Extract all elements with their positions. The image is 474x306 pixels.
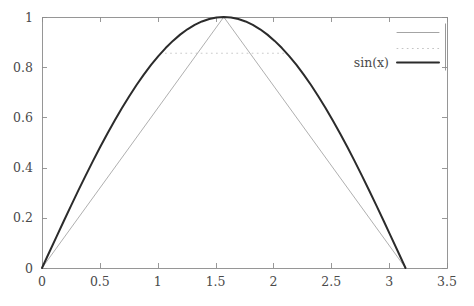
- y-tick-label: 0.4: [13, 160, 33, 175]
- x-tick-label: 3.5: [437, 274, 457, 289]
- x-tick-label: 0: [38, 274, 46, 289]
- sine-plot: 00.511.522.533.5 00.20.40.60.81 sin(x): [0, 0, 474, 306]
- y-tick-label: 1: [25, 10, 33, 25]
- x-tick-label: 0.5: [90, 274, 110, 289]
- x-tick-label: 1.5: [206, 274, 226, 289]
- y-tick-label: 0: [25, 261, 33, 276]
- y-tick-label: 0.6: [13, 110, 33, 125]
- x-tick-label: 3: [385, 274, 393, 289]
- legend-label: sin(x): [354, 55, 389, 70]
- chart-container: 00.511.522.533.5 00.20.40.60.81 sin(x): [0, 0, 474, 306]
- y-tick-label: 0.8: [13, 60, 33, 75]
- y-tick-label: 0.2: [13, 210, 33, 225]
- x-tick-label: 2: [269, 274, 277, 289]
- x-tick-label: 1: [154, 274, 162, 289]
- x-tick-label: 2.5: [321, 274, 341, 289]
